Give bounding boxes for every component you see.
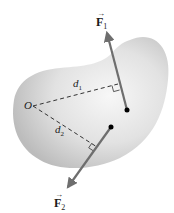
rigid-body-shape [13,37,169,168]
f2-subscript: 2 [61,203,65,212]
f1-subscript: 1 [103,22,107,31]
vector-arrow-icon: → [55,191,63,199]
d2-subscript: 2 [61,130,65,138]
label-d1: d1 [73,78,82,92]
f1-application-point [125,108,130,113]
vector-arrow-icon: → [97,10,105,18]
label-origin: O [24,100,32,111]
label-f2: → F2 [54,197,65,212]
label-d2: d2 [55,124,64,138]
label-f1: → F1 [96,16,107,31]
f2-application-point [109,125,114,130]
d1-subscript: 1 [79,84,83,92]
